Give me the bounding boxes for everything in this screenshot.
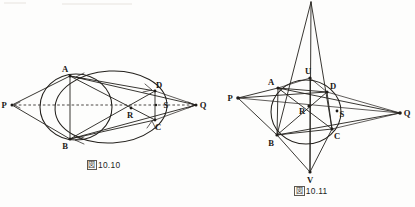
figure-10-10-number: 10.10 [98, 160, 120, 170]
label-v: V [307, 175, 314, 185]
vertex-p [236, 96, 240, 100]
label-q: Q [404, 108, 411, 118]
label-p: P [227, 93, 232, 103]
figure-marker-icon: 図 [294, 186, 304, 196]
vertex-v [308, 170, 311, 173]
vertex-a [276, 86, 279, 89]
vertex-q [398, 111, 402, 115]
figure-10-11: A B C D R S U V P Q [207, 0, 415, 207]
figure-10-11-drawing: A B C D R S U V P Q [207, 0, 415, 190]
figure-10-10-drawing: A B C D R S P Q [0, 0, 207, 160]
label-r: R [299, 106, 306, 116]
vertex-s [336, 110, 339, 113]
label-c: C [334, 131, 340, 141]
figure-marker-icon: 図 [87, 160, 97, 170]
label-q: Q [200, 100, 207, 110]
label-c: C [155, 122, 161, 132]
label-s: S [164, 100, 169, 110]
vertex-b [275, 133, 278, 136]
vertex-s [155, 104, 157, 106]
segment-pq [238, 98, 400, 113]
label-d: D [330, 81, 336, 91]
segment-pb [12, 105, 70, 139]
vertex-u [308, 76, 311, 79]
label-a: A [268, 77, 275, 87]
segment-vc [310, 129, 332, 172]
figure-10-11-number: 10.11 [306, 186, 328, 196]
label-p: P [1, 100, 6, 110]
segment-vb [277, 135, 310, 172]
ellipse-abcd [53, 68, 169, 146]
label-b: B [268, 138, 274, 148]
segment-ad [278, 88, 327, 92]
figure-10-10-caption: 図10.10 [0, 160, 207, 170]
segment-ua [278, 78, 310, 88]
vertex-d [325, 90, 328, 93]
vertex-r [130, 107, 133, 110]
label-a: A [62, 64, 69, 74]
label-r: R [127, 110, 134, 120]
vertex-p [11, 104, 14, 107]
vertex-a [69, 75, 72, 78]
label-d: D [156, 80, 162, 90]
segment-apex-d [311, 2, 332, 129]
vertex-b [69, 138, 72, 141]
figure-10-11-caption: 図10.11 [207, 186, 415, 196]
vertex-d [154, 90, 157, 93]
label-s: S [340, 109, 345, 119]
label-b: B [62, 141, 68, 151]
segment-cd [327, 92, 332, 129]
vertex-q [195, 104, 198, 107]
label-u: U [305, 66, 311, 76]
figure-10-10: A B C D R S P Q [0, 0, 207, 207]
segment-aq [70, 76, 196, 105]
vertex-c [154, 119, 157, 122]
curve-arrow-d [143, 84, 152, 92]
circle-ab [40, 74, 112, 140]
figure-page: A B C D R S P Q 図10.10 [0, 0, 415, 207]
vertex-r [307, 104, 310, 107]
